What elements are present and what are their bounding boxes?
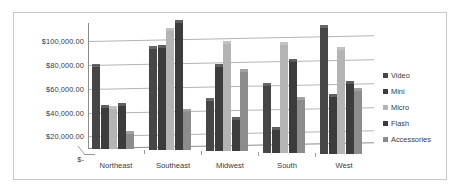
y-axis-tick-label: $60,000.00 [46, 85, 84, 94]
y-axis-tick-label: $100,000.00 [42, 37, 84, 46]
bar-face [109, 109, 117, 149]
bar[interactable] [263, 86, 271, 153]
legend-item-label: Accessories [391, 135, 431, 144]
bar[interactable] [289, 62, 297, 153]
bar-face [149, 49, 157, 150]
legend-item-label: Micro [391, 103, 409, 112]
bar[interactable] [346, 84, 354, 153]
chart-legend: Video Mini Micro Flash Accessories [383, 68, 447, 148]
x-axis-category-label: Northeast [100, 161, 133, 170]
bar-group [206, 25, 252, 151]
bar[interactable] [175, 23, 183, 150]
legend-item-label: Mini [391, 87, 405, 96]
y-axis-tick-label: $40,000.00 [46, 109, 84, 118]
bar-face [354, 91, 362, 154]
bar-face [183, 112, 191, 150]
bar[interactable] [118, 106, 126, 149]
legend-swatch-icon [383, 105, 388, 110]
bar[interactable] [232, 120, 240, 152]
bar-face [289, 62, 297, 153]
legend-item-mini[interactable]: Mini [383, 84, 447, 98]
bar[interactable] [158, 48, 166, 150]
bar-face [126, 134, 134, 149]
x-axis-category-label: West [335, 161, 352, 170]
legend-item-video[interactable]: Video [383, 68, 447, 82]
legend-swatch-icon [383, 121, 388, 126]
bar-face [92, 67, 100, 149]
chart-screenshot: $100,000.00 $80,000.00 $60,000.00 $40,00… [0, 0, 460, 193]
bar[interactable] [109, 109, 117, 149]
bar[interactable] [166, 31, 174, 151]
bar[interactable] [126, 134, 134, 149]
bar-series-container [88, 17, 374, 157]
legend-item-flash[interactable]: Flash [383, 116, 447, 130]
y-axis: $100,000.00 $80,000.00 $60,000.00 $40,00… [14, 13, 88, 181]
legend-item-label: Flash [391, 119, 409, 128]
bar-face [329, 97, 337, 154]
bar[interactable] [240, 72, 248, 151]
bar[interactable] [329, 97, 337, 154]
bar[interactable] [337, 50, 345, 153]
bar[interactable] [183, 112, 191, 150]
legend-item-micro[interactable]: Micro [383, 100, 447, 114]
bar-face [158, 48, 166, 150]
bar[interactable] [223, 44, 231, 151]
bar-face [346, 84, 354, 153]
bar-face [297, 100, 305, 153]
bar-face [320, 28, 328, 154]
bar-face [240, 72, 248, 151]
bar-face [101, 108, 109, 150]
legend-item-label: Video [391, 71, 410, 80]
bar-group [92, 23, 138, 149]
y-axis-tick-label: $80,000.00 [46, 61, 84, 70]
bar[interactable] [272, 130, 280, 153]
bar[interactable] [101, 108, 109, 150]
bar-face [272, 130, 280, 153]
bar-group [149, 24, 195, 150]
legend-swatch-icon [383, 89, 388, 94]
bar-group [263, 27, 309, 153]
x-axis-labels: Northeast Southeast Midwest South West [88, 161, 378, 177]
bar-face [337, 50, 345, 153]
bar[interactable] [92, 67, 100, 149]
legend-item-accessories[interactable]: Accessories [383, 132, 447, 146]
bar-face [280, 45, 288, 152]
bar[interactable] [149, 49, 157, 150]
chart-frame: $100,000.00 $80,000.00 $60,000.00 $40,00… [13, 12, 447, 180]
bar-face [118, 106, 126, 149]
bar[interactable] [206, 101, 214, 151]
plot-area [88, 17, 374, 157]
bar-face [215, 67, 223, 151]
y-axis-tick-label: $20,000.00 [46, 132, 84, 141]
bar[interactable] [280, 45, 288, 152]
bar-face [232, 120, 240, 152]
y-axis-tick-label: $- [77, 155, 84, 164]
bar-face [223, 44, 231, 151]
bar-group [320, 28, 366, 154]
x-axis-category-label: Midwest [216, 161, 244, 170]
legend-swatch-icon [383, 73, 388, 78]
x-axis-category-label: Southeast [156, 161, 190, 170]
bar-face [206, 101, 214, 151]
bar[interactable] [320, 28, 328, 154]
bar-face [263, 86, 271, 153]
bar[interactable] [215, 67, 223, 151]
x-axis-category-label: South [277, 161, 297, 170]
bar-face [166, 31, 174, 151]
bar[interactable] [354, 91, 362, 154]
bar[interactable] [297, 100, 305, 153]
legend-swatch-icon [383, 137, 388, 142]
bar-face [175, 23, 183, 150]
